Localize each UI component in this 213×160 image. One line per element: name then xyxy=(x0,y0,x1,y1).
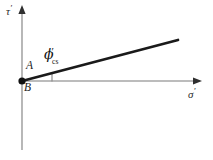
horizontal-axis-arrowhead xyxy=(193,78,202,85)
phi-subscript-cs: cs xyxy=(52,57,59,66)
vertical-axis-label: τ′ xyxy=(6,3,12,17)
point-a-label: A xyxy=(26,60,33,72)
tau-prime-glyph: ′ xyxy=(10,3,12,13)
diagram-canvas xyxy=(0,0,213,160)
sigma-prime-glyph: ′ xyxy=(193,86,195,96)
figure-container: τ′ σ′ A B ϕ′cs xyxy=(0,0,213,160)
horizontal-axis-label: σ′ xyxy=(188,86,195,100)
point-b-label: B xyxy=(24,82,31,94)
phi-prime-glyph: ′ xyxy=(52,45,54,57)
friction-angle-label: ϕ′cs xyxy=(44,45,63,64)
vertical-axis-arrowhead xyxy=(18,5,25,14)
